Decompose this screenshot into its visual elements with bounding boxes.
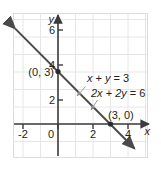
label-equation-1: x + y = 3 (86, 72, 129, 84)
x-tick-label-minus-2: -2 (18, 128, 28, 140)
label-point-3-0: (3, 0) (108, 109, 134, 121)
x-tick-label-2: 2 (90, 128, 96, 140)
point-marker-y-intercept (55, 69, 60, 74)
coordinate-plane-svg: 6 4 2 -2 0 2 4 y x (0, 3) (3, 0) x + y =… (0, 0, 161, 175)
y-tick-label-6: 6 (49, 24, 55, 36)
equation-2-plus: + (103, 87, 116, 99)
graph-figure: 6 4 2 -2 0 2 4 y x (0, 3) (3, 0) x + y =… (0, 0, 161, 175)
x-tick-label-0: 0 (48, 128, 54, 140)
point-marker-x-intercept (108, 121, 113, 126)
equation-1-plus: + (93, 72, 106, 84)
label-point-0-3: (0, 3) (28, 66, 54, 78)
x-tick-label-4: 4 (125, 128, 131, 140)
label-equation-2: 2x + 2y = 6 (90, 87, 145, 99)
equation-2-rhs: = 6 (127, 87, 146, 99)
x-axis-name: x (144, 125, 151, 137)
equation-2-2x: 2x (90, 87, 103, 99)
equation-1-rhs: = 3 (111, 72, 130, 84)
y-tick-label-2: 2 (49, 94, 55, 106)
